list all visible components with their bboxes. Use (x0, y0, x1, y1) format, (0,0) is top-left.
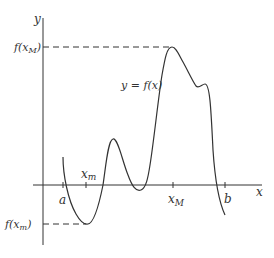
y-axis-label: y (33, 12, 41, 26)
x-axis-label: x (256, 185, 263, 199)
tick-label-x-M: xM (168, 192, 185, 208)
min-value-label: f(xm) (4, 218, 31, 232)
function-curve (63, 47, 225, 224)
tick-label-b: b (224, 192, 232, 206)
extreme-value-diagram: y x y = f(x) f(xM) f(xm) a xm xM b (0, 0, 274, 258)
curve-label: y = f(x) (120, 79, 162, 92)
tick-label-a: a (59, 193, 66, 207)
max-value-label: f(xM) (13, 41, 41, 55)
tick-label-x-m: xm (81, 167, 96, 182)
